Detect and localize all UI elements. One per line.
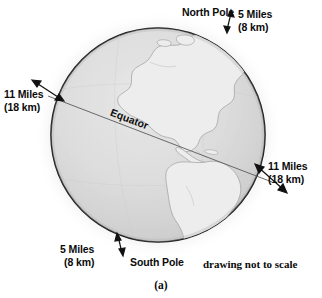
not-to-scale-note: drawing not to scale <box>203 258 297 270</box>
equator-left-dimension-label: 11 Miles (18 km) <box>4 88 43 113</box>
equator-right-dimension-label: 11 Miles (18 km) <box>268 160 307 185</box>
north-pole-label: North Pole <box>182 6 234 19</box>
south-pole-dimension-label: 5 Miles (8 km) <box>60 243 94 268</box>
globe-illustration <box>0 0 322 298</box>
south-pole-label: South Pole <box>130 256 184 269</box>
arctic-island-b <box>157 40 171 47</box>
figure-page: North Pole 5 Miles (8 km) 11 Miles (18 k… <box>0 0 322 298</box>
north-pole-dimension-label: 5 Miles (8 km) <box>238 8 272 33</box>
figure-caption: (a) <box>0 279 322 291</box>
